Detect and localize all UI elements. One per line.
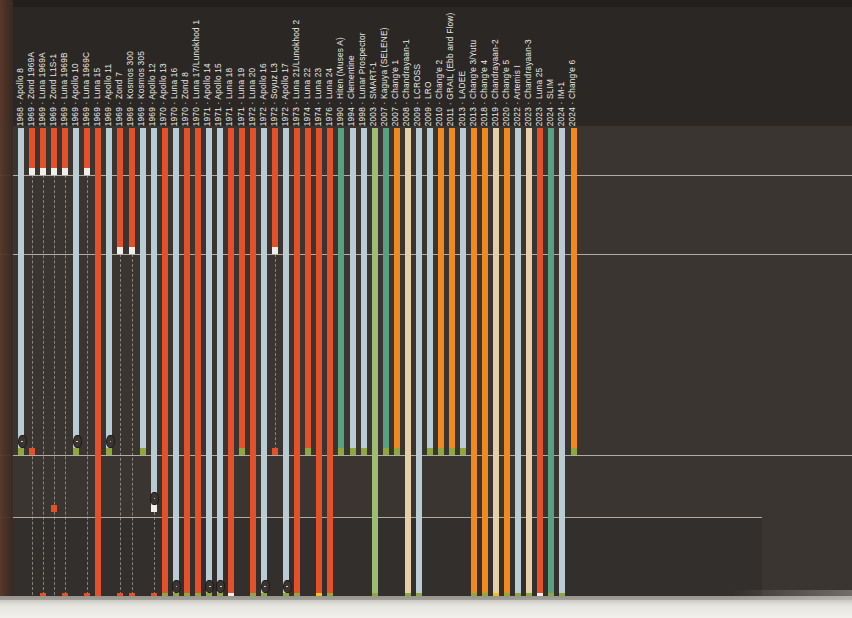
bar[interactable] [117, 128, 123, 254]
bar-label: 2023 · Luna 25 [535, 67, 543, 126]
bar[interactable] [449, 128, 455, 455]
bar[interactable] [18, 128, 24, 455]
bar[interactable] [217, 128, 223, 600]
bar[interactable] [383, 128, 389, 455]
bar-dashed-extension [120, 254, 121, 600]
bar[interactable] [316, 128, 322, 600]
bar[interactable] [460, 128, 466, 455]
bar[interactable] [438, 128, 444, 455]
bar-label: 1974 · Luna 23 [314, 67, 322, 126]
bar[interactable] [140, 128, 146, 455]
bar[interactable] [73, 128, 79, 455]
bar[interactable] [482, 128, 488, 600]
bar-label: 1973 · Luna 21/Lunokhod 2 [291, 20, 299, 127]
bar-label: 2020 · Chang'e 5 [501, 59, 509, 126]
bar[interactable] [129, 128, 135, 254]
dashed-run-end-marker [272, 448, 278, 455]
bar[interactable] [305, 128, 311, 455]
bar-label: 1998 · Lunar Prospector [358, 32, 366, 126]
bar-dashed-extension [132, 254, 133, 600]
bar-end-cap [117, 247, 123, 254]
bar[interactable] [173, 128, 179, 600]
scan-top-edge [0, 0, 852, 7]
bar[interactable] [471, 128, 477, 600]
bar[interactable] [327, 128, 333, 600]
bar-label: 1969 · Apollo 11 [104, 63, 112, 126]
scan-corner-highlight [732, 590, 852, 600]
plot-panel-lower [0, 517, 762, 601]
bar-label: 2003 · SMART-1 [369, 62, 377, 126]
bar[interactable] [548, 128, 554, 600]
bar-label: 2024 · Chang'e 6 [568, 59, 576, 126]
bar-label: 1970 · Zond 8 [181, 72, 189, 126]
bar[interactable] [416, 128, 422, 600]
bar[interactable] [372, 128, 378, 600]
bar[interactable] [526, 128, 532, 600]
bar-label: 1990 · Hiten (Muses A) [336, 37, 344, 126]
bar[interactable] [283, 128, 289, 600]
bar[interactable] [261, 128, 267, 600]
bar[interactable] [239, 128, 245, 455]
bar[interactable] [195, 128, 201, 600]
bar-label: 1969 · Luna 15 [93, 67, 101, 126]
bar[interactable] [394, 128, 400, 455]
landing-marker-icon [172, 580, 181, 593]
bar-end-cap [338, 448, 344, 455]
bar-dashed-extension [54, 175, 55, 600]
landing-marker-icon [283, 580, 292, 593]
bar[interactable] [206, 128, 212, 600]
bar-label: 1971 · Apollo 15 [214, 63, 222, 126]
category-labels: 1968 · Apollo 81969 · Zond 1969A1969 · L… [0, 0, 852, 126]
bar-end-cap [272, 247, 278, 254]
bar[interactable] [151, 128, 157, 512]
bar[interactable] [361, 128, 367, 455]
bar[interactable] [350, 128, 356, 455]
bar-end-cap [29, 168, 35, 175]
bar-label: 2022 · Artemis I [512, 65, 520, 126]
bar-label: 2019 · Chandrayaan-2 [490, 39, 498, 126]
bar-label: 2007 · Chang'e 1 [391, 59, 399, 126]
bar-end-cap [73, 448, 79, 455]
bar-label: 2024 · IM-1 [557, 81, 565, 126]
bar[interactable] [184, 128, 190, 600]
bar[interactable] [272, 128, 278, 254]
bar[interactable] [427, 128, 433, 455]
bar-label: 1972 · Apollo 17 [280, 63, 288, 126]
bar-label: 1969 · Luna 1969C [82, 52, 90, 126]
bar-label: 1972 · Soyuz L3 [269, 63, 277, 126]
dashed-run-end-marker [51, 505, 57, 512]
bar-end-cap [140, 448, 146, 455]
bar-label: 1970 · Luna 17/Lunokhod 1 [192, 20, 200, 127]
landing-marker-icon [106, 435, 115, 448]
bar-label: 2010 · Chang'e 2 [435, 59, 443, 126]
bar[interactable] [537, 128, 543, 600]
bar-label: 1969 · Apollo 10 [70, 63, 78, 126]
bar[interactable] [338, 128, 344, 455]
bar-label: 1969 · Kosmos 300 [126, 51, 134, 126]
bar[interactable] [504, 128, 510, 600]
bar-end-cap [350, 448, 356, 455]
bar-label: 1971 · Apollo 14 [203, 63, 211, 126]
bar-end-cap [239, 448, 245, 455]
bar[interactable] [106, 128, 112, 455]
bar[interactable] [559, 128, 565, 600]
bar-label: 1976 · Luna 24 [325, 67, 333, 126]
bar[interactable] [228, 128, 234, 600]
bar[interactable] [493, 128, 499, 600]
bar-end-cap [361, 448, 367, 455]
bar[interactable] [405, 128, 411, 600]
bar[interactable] [515, 128, 521, 600]
bar-label: 1970 · Apollo 13 [159, 63, 167, 126]
landing-marker-icon [18, 435, 27, 448]
bar-label: 2009 · LRO [424, 81, 432, 126]
bar[interactable] [162, 128, 168, 600]
bar[interactable] [95, 128, 101, 600]
bar-end-cap [383, 448, 389, 455]
bar[interactable] [294, 128, 300, 600]
bar-end-cap [305, 448, 311, 455]
bar[interactable] [571, 128, 577, 455]
bar-end-cap [151, 505, 157, 512]
bar[interactable] [250, 128, 256, 600]
bar-end-cap [427, 448, 433, 455]
chart-canvas: 1968 · Apollo 81969 · Zond 1969A1969 · L… [0, 0, 852, 618]
